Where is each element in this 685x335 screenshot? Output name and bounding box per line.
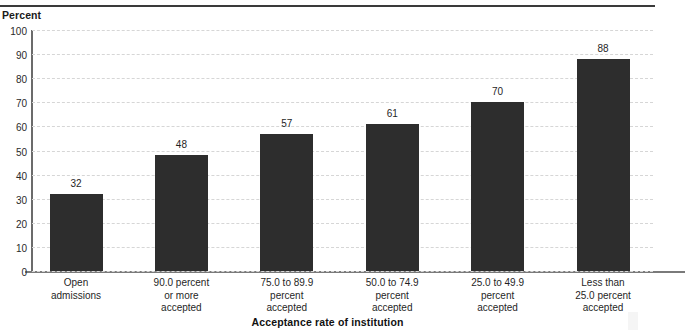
x-tick-label-line: admissions (18, 290, 134, 303)
gridline: 20 (32, 223, 653, 224)
bar: 61 (366, 124, 419, 271)
x-tick-label-line: Less than (545, 277, 661, 290)
gridline: 90 (32, 54, 653, 55)
y-tick-label: 70 (16, 98, 27, 109)
bar-value-label: 61 (387, 108, 398, 119)
y-tick-label: 40 (16, 170, 27, 181)
bar: 70 (471, 102, 524, 271)
x-tick-label: 75.0 to 89.9percentaccepted (229, 277, 345, 315)
gridline: 80 (32, 78, 653, 79)
gridline: 60 (32, 126, 653, 127)
y-tick-label: 0 (21, 267, 27, 278)
plot-area: 0102030405060708090100 324857617088 (31, 30, 653, 271)
gridline: 30 (32, 199, 653, 200)
gridline: 70 (32, 102, 653, 103)
x-axis-title: Acceptance rate of institution (0, 316, 655, 328)
bar: 32 (50, 194, 103, 271)
x-tick-label: 90.0 percentor moreaccepted (123, 277, 239, 315)
x-tick-label: 25.0 to 49.9percentaccepted (440, 277, 556, 315)
x-tick-label-line: accepted (440, 302, 556, 315)
x-tick-label-line: 50.0 to 74.9 (334, 277, 450, 290)
x-tick-label-line: accepted (123, 302, 239, 315)
x-tick-label: 50.0 to 74.9percentaccepted (334, 277, 450, 315)
gridline: 10 (32, 247, 653, 248)
x-tick-label-line: percent (440, 290, 556, 303)
gridline: 40 (32, 175, 653, 176)
scan-artifact (628, 312, 638, 330)
x-tick-label-line: 90.0 percent (123, 277, 239, 290)
bar: 48 (155, 155, 208, 271)
x-tick-label-line: accepted (229, 302, 345, 315)
bar: 88 (577, 59, 630, 271)
y-axis-caption: Percent (2, 9, 41, 21)
x-tick-label-line: accepted (334, 302, 450, 315)
bar-value-label: 48 (176, 139, 187, 150)
y-tick-label: 100 (10, 26, 27, 37)
x-tick-label-line: 25.0 to 49.9 (440, 277, 556, 290)
gridline: 100 (32, 30, 653, 31)
x-tick-label-line: Open (18, 277, 134, 290)
bar: 57 (260, 134, 313, 271)
y-tick-label: 10 (16, 242, 27, 253)
y-tick-label: 20 (16, 218, 27, 229)
x-tick-label-line: accepted (545, 302, 661, 315)
header-divider (0, 5, 655, 7)
bar-value-label: 70 (492, 86, 503, 97)
bar-value-label: 88 (597, 43, 608, 54)
y-tick-label: 60 (16, 122, 27, 133)
gridline: 0 (32, 271, 653, 272)
x-tick-label-line: 75.0 to 89.9 (229, 277, 345, 290)
x-tick-label-line: percent (334, 290, 450, 303)
x-tick-label: Less than25.0 percentaccepted (545, 277, 661, 315)
gridline: 50 (32, 151, 653, 152)
y-tick-label: 90 (16, 50, 27, 61)
y-tick-label: 30 (16, 194, 27, 205)
x-tick-label-line: 25.0 percent (545, 290, 661, 303)
x-tick-label-line: or more (123, 290, 239, 303)
bar-value-label: 32 (70, 178, 81, 189)
x-tick-label: Openadmissions (18, 277, 134, 302)
y-tick-label: 80 (16, 74, 27, 85)
bar-value-label: 57 (281, 118, 292, 129)
x-tick-label-line: percent (229, 290, 345, 303)
y-tick-label: 50 (16, 146, 27, 157)
